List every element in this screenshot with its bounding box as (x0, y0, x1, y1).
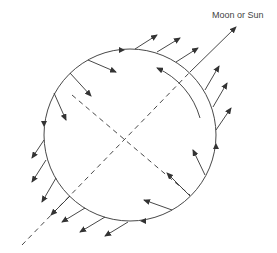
tidal-force-diagram: Moon or Sun (0, 0, 277, 253)
moon-or-sun-label: Moon or Sun (212, 10, 264, 20)
diagram-svg (0, 0, 277, 253)
moon-direction-arrow (190, 27, 236, 72)
perpendicular-axis (72, 95, 190, 195)
rotation-arrow (157, 68, 200, 118)
earth-circle (44, 49, 216, 221)
force-arrows (32, 35, 231, 236)
